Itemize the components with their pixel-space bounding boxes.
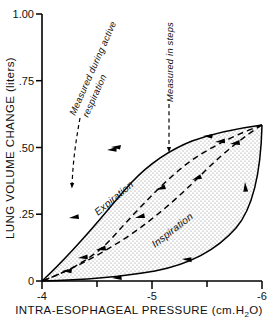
annotation-measured-in-steps: Measured in steps	[164, 22, 175, 150]
y-tick-label: 1.00	[13, 8, 34, 20]
x-axis-title-tail: O)	[249, 304, 263, 316]
y-tick-label: .50	[19, 142, 34, 154]
x-axis-tick-labels: -4 -5 -6	[37, 290, 267, 302]
annotation-text-steps: Measured in steps	[164, 22, 175, 102]
x-axis-ticks	[42, 281, 262, 289]
y-tick-label: 0	[28, 275, 34, 287]
y-tick-label: .25	[19, 208, 34, 220]
outer-expiration-arrowhead-mid	[107, 147, 117, 152]
annotation-active-respiration: Measured during active respiration	[67, 19, 118, 186]
pressure-volume-hysteresis-plot: 1.00 .75 .50 .25 0 -4 -5 -6 INTRA-ESOPHA…	[0, 0, 279, 319]
x-axis-title-main: INTRA-ESOPHAGEAL PRESSURE (cm.H	[15, 304, 244, 316]
y-axis-title: LUNG VOLUME CHANGE (liters)	[4, 57, 16, 239]
y-tick-label: .75	[19, 75, 34, 87]
x-tick-label: -6	[257, 290, 267, 302]
x-axis-title: INTRA-ESOPHAGEAL PRESSURE (cm.H2O)	[15, 304, 263, 319]
annotation-leader-line-active	[72, 118, 80, 186]
x-tick-label: -5	[147, 290, 157, 302]
x-tick-label: -4	[37, 290, 47, 302]
chart-figure: 1.00 .75 .50 .25 0 -4 -5 -6 INTRA-ESOPHA…	[0, 0, 279, 319]
y-axis-ticks	[36, 14, 42, 281]
